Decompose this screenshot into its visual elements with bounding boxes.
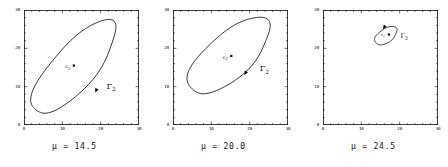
limit-cycle-curve: [375, 26, 398, 44]
y-tick-label: 30: [164, 8, 169, 12]
panel-caption-1: μ = 20.0: [149, 142, 298, 152]
equilibrium-point-marker: [388, 33, 390, 35]
x-tick-label: 10: [60, 127, 65, 131]
x-tick-label: 0: [23, 127, 25, 131]
orbit-direction-arrow: [95, 88, 99, 93]
figure-root: c2Γ201020300102030μ = 14.5c2Γ20102030010…: [0, 0, 448, 167]
phase-plot-svg-0: c2Γ2: [24, 10, 139, 125]
axis-ticks: [323, 10, 438, 125]
equilibrium-point-marker: [73, 64, 75, 66]
limit-cycle-label-subscript: 2: [265, 69, 269, 75]
y-tick-label: 20: [164, 46, 169, 50]
limit-cycle-curve: [187, 17, 270, 94]
equilibrium-label-subscript: 2: [226, 57, 228, 61]
y-tick-label: 10: [314, 85, 319, 89]
y-tick-label: 0: [317, 123, 319, 127]
x-tick-label: 30: [286, 127, 291, 131]
phase-panel-1: c2Γ201020300102030μ = 20.0: [149, 0, 298, 167]
y-tick-label: 10: [164, 85, 169, 89]
x-axis-tick-labels-2: 0102030: [323, 127, 438, 135]
equilibrium-point-marker: [230, 55, 232, 57]
panel-caption-0: μ = 14.5: [0, 142, 149, 152]
plot-area-0: c2Γ2: [24, 10, 139, 125]
y-tick-label: 30: [15, 8, 20, 12]
y-axis-tick-labels-0: 0102030: [0, 10, 21, 125]
phase-panel-0: c2Γ201020300102030μ = 14.5: [0, 0, 149, 167]
y-tick-label: 0: [167, 123, 169, 127]
plot-frame: [323, 10, 437, 124]
plot-area-2: c2Γ2: [323, 10, 438, 125]
limit-cycle-label: Γ2: [260, 63, 270, 74]
limit-cycle-label: Γ2: [400, 32, 408, 41]
y-tick-label: 0: [18, 123, 20, 127]
plot-frame: [24, 10, 138, 124]
phase-plot-svg-1: c2Γ2: [173, 10, 288, 125]
equilibrium-label-subscript: 2: [68, 67, 70, 71]
y-tick-label: 20: [15, 46, 20, 50]
y-axis-tick-labels-2: 0102030: [299, 10, 320, 125]
axis-ticks: [24, 10, 139, 125]
limit-cycle-label-subscript: 2: [112, 86, 116, 92]
limit-cycle-label-subscript: 2: [405, 36, 408, 41]
limit-cycle-label: Γ2: [106, 81, 116, 92]
x-tick-label: 10: [209, 127, 214, 131]
y-tick-label: 30: [314, 8, 319, 12]
x-tick-label: 10: [359, 127, 364, 131]
phase-panel-2: c2Γ201020300102030μ = 24.5: [299, 0, 448, 167]
plot-area-1: c2Γ2: [173, 10, 288, 125]
equilibrium-label: c2: [223, 54, 228, 62]
panel-caption-2: μ = 24.5: [299, 142, 448, 152]
y-tick-label: 10: [15, 85, 20, 89]
x-tick-label: 0: [322, 127, 324, 131]
x-tick-label: 0: [172, 127, 174, 131]
x-axis-tick-labels-0: 0102030: [24, 127, 139, 135]
equilibrium-label-subscript: 2: [383, 35, 385, 38]
x-tick-label: 20: [247, 127, 252, 131]
x-tick-label: 20: [397, 127, 402, 131]
x-tick-label: 20: [98, 127, 103, 131]
x-axis-tick-labels-1: 0102030: [173, 127, 288, 135]
equilibrium-label: c2: [65, 63, 70, 71]
x-tick-label: 30: [436, 127, 441, 131]
x-tick-label: 30: [137, 127, 142, 131]
equilibrium-label: c2: [381, 33, 385, 38]
y-axis-tick-labels-1: 0102030: [149, 10, 170, 125]
y-tick-label: 20: [314, 46, 319, 50]
phase-plot-svg-2: c2Γ2: [323, 10, 438, 125]
